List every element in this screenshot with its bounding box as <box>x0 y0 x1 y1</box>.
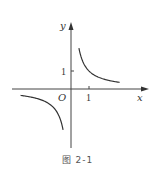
y-tick-label: 1 <box>61 66 66 77</box>
y-axis-arrow-icon <box>69 22 74 30</box>
figure-caption: 图 2-1 <box>0 153 155 166</box>
x-axis-label: x <box>137 92 143 103</box>
hyperbola-branch-quadrant-1 <box>79 48 120 82</box>
hyperbola-branch-quadrant-3 <box>21 95 63 129</box>
origin-label: O <box>58 92 66 103</box>
x-axis-arrow-icon <box>141 87 149 92</box>
y-axis-label: y <box>59 20 66 31</box>
hyperbola-plot: y x O 1 1 <box>0 0 155 173</box>
x-tick-label: 1 <box>86 92 91 103</box>
